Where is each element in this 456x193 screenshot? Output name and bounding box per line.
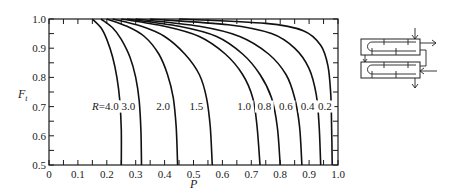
x-tick-label: 0.3: [129, 168, 143, 180]
curve-r-1-5: [113, 19, 213, 165]
y-tick-label: 0.8: [32, 71, 46, 83]
y-tick-label: 1.0: [32, 13, 46, 25]
x-tick-label: 0.4: [158, 168, 172, 180]
curve-label: 2.0: [156, 100, 170, 112]
chart-figure: 00.10.20.30.40.50.60.70.80.91.00.50.60.7…: [0, 0, 456, 193]
y-tick-label: 0.7: [32, 101, 46, 113]
curve-r-1-0: [121, 19, 260, 165]
curve-label: 3.0: [122, 100, 136, 112]
curve-label: 1.0: [237, 100, 251, 112]
y-axis-title: Ft: [17, 87, 28, 103]
x-tick-label: 0.6: [216, 168, 230, 180]
curve-label: 0.6: [279, 100, 293, 112]
x-tick-label: 0.1: [71, 168, 85, 180]
x-tick-label: 0: [46, 168, 52, 180]
curve-r-0-2: [179, 19, 332, 165]
curve-label: R=4.0: [91, 100, 119, 112]
curve-r-4-0: [92, 19, 121, 165]
axis-ticks: 00.10.20.30.40.50.60.70.80.91.00.50.60.7…: [32, 13, 345, 180]
y-axis-title-sub: t: [25, 94, 28, 103]
x-tick-label: 0.9: [302, 168, 316, 180]
x-tick-label: 0.7: [244, 168, 258, 180]
curve-r-0-4: [150, 19, 321, 165]
x-tick-label: 0.8: [273, 168, 287, 180]
curve-r-0-6: [136, 19, 302, 165]
plot-frame: [49, 19, 338, 165]
curve-label: 1.5: [190, 100, 204, 112]
curve-label: 0.2: [318, 100, 332, 112]
y-tick-label: 0.9: [32, 42, 46, 54]
curve-label: 0.4: [301, 100, 315, 112]
x-tick-label: 1.0: [331, 168, 345, 180]
plot-border: [49, 19, 338, 165]
x-axis-title: P: [189, 177, 198, 191]
curves: [92, 19, 332, 165]
chart-svg: 00.10.20.30.40.50.60.70.80.91.00.50.60.7…: [0, 0, 456, 193]
y-tick-label: 0.6: [32, 130, 46, 142]
x-tick-label: 0.2: [100, 168, 114, 180]
exchanger-schematic: [361, 28, 437, 88]
curve-r-2-0: [107, 19, 178, 165]
y-tick-label: 0.5: [32, 159, 46, 171]
curve-label: 0.8: [257, 100, 271, 112]
